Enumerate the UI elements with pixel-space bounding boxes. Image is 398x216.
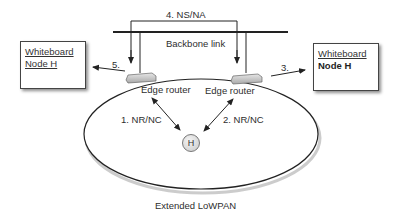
extended-lowpan-ellipse [84, 79, 320, 193]
right-edge-router-label: Edge router [205, 85, 255, 96]
host-node-h: H [182, 134, 200, 152]
step5-label: 5. [112, 59, 120, 70]
step3-label: 3. [281, 62, 289, 73]
right-whiteboard-node: Node H [318, 60, 351, 71]
right-whiteboard-title: Whiteboard [318, 48, 367, 59]
right-edge-router-icon [231, 74, 262, 84]
left-whiteboard-node: Node H [25, 58, 57, 69]
ns-na-label: 4. NS/NA [166, 9, 206, 20]
step5-arrow [93, 67, 125, 71]
extended-lowpan-label: Extended LoWPAN [155, 200, 236, 211]
nrnc1-label: 1. NR/NC [121, 114, 162, 125]
backbone-link-label: Backbone link [166, 38, 225, 49]
nrnc2-label: 2. NR/NC [223, 114, 264, 125]
left-whiteboard-title: Whiteboard [25, 46, 74, 57]
left-edge-router-icon [126, 73, 156, 83]
left-edge-router-label: Edge router [141, 84, 191, 95]
diagram-canvas [0, 0, 398, 216]
right-whiteboard-box: Whiteboard Node H [313, 43, 379, 91]
left-whiteboard-box: Whiteboard Node H [20, 41, 86, 89]
